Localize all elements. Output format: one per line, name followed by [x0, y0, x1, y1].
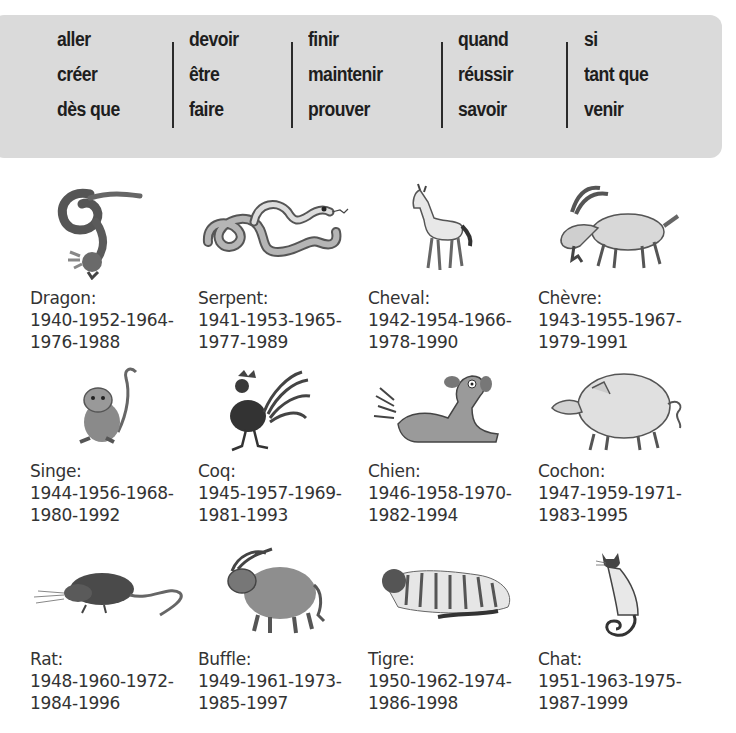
word: être — [189, 57, 239, 92]
zodiac-label: Cheval: 1942-1954-1966- 1978-1990 — [368, 287, 512, 353]
years: 1986-1998 — [368, 692, 512, 714]
column-divider — [172, 42, 174, 128]
animal-name: Singe: — [30, 460, 174, 482]
word-column-5: si tant que venir — [584, 22, 648, 127]
animal-name: Chat: — [538, 648, 682, 670]
years: 1979-1991 — [538, 331, 682, 353]
rat-icon — [30, 545, 190, 640]
dragon-icon — [30, 182, 190, 277]
word: venir — [584, 92, 648, 127]
years: 1951-1963-1975- — [538, 670, 682, 692]
years: 1985-1997 — [198, 692, 342, 714]
years: 1947-1959-1971- — [538, 482, 682, 504]
years: 1976-1988 — [30, 331, 174, 353]
years: 1984-1996 — [30, 692, 174, 714]
word-column-4: quand réussir savoir — [458, 22, 513, 127]
years: 1987-1999 — [538, 692, 682, 714]
word: si — [584, 22, 648, 57]
animal-name: Chèvre: — [538, 287, 682, 309]
snake-icon — [198, 182, 358, 277]
word: faire — [189, 92, 239, 127]
years: 1980-1992 — [30, 504, 174, 526]
zodiac-label: Singe: 1944-1956-1968- 1980-1992 — [30, 460, 174, 526]
animal-name: Dragon: — [30, 287, 174, 309]
column-divider — [566, 42, 568, 128]
zodiac-label: Coq: 1945-1957-1969- 1981-1993 — [198, 460, 342, 526]
animal-name: Cheval: — [368, 287, 512, 309]
zodiac-label: Chèvre: 1943-1955-1967- 1979-1991 — [538, 287, 682, 353]
buffalo-icon — [198, 545, 358, 640]
years: 1941-1953-1965- — [198, 309, 342, 331]
word: aller — [57, 22, 120, 57]
animal-name: Coq: — [198, 460, 342, 482]
cat-icon — [538, 545, 698, 640]
years: 1944-1956-1968- — [30, 482, 174, 504]
dog-icon — [368, 362, 528, 457]
word: prouver — [308, 92, 382, 127]
animal-name: Cochon: — [538, 460, 682, 482]
animal-name: Tigre: — [368, 648, 512, 670]
word: tant que — [584, 57, 648, 92]
zodiac-label: Cochon: 1947-1959-1971- 1983-1995 — [538, 460, 682, 526]
animal-name: Chien: — [368, 460, 512, 482]
word: réussir — [458, 57, 513, 92]
word: dès que — [57, 92, 120, 127]
years: 1978-1990 — [368, 331, 512, 353]
pig-icon — [538, 362, 698, 457]
monkey-icon — [30, 362, 190, 457]
tiger-icon — [368, 545, 528, 640]
word: maintenir — [308, 57, 382, 92]
zodiac-label: Chat: 1951-1963-1975- 1987-1999 — [538, 648, 682, 714]
years: 1983-1995 — [538, 504, 682, 526]
years: 1942-1954-1966- — [368, 309, 512, 331]
zodiac-label: Serpent: 1941-1953-1965- 1977-1989 — [198, 287, 342, 353]
years: 1982-1994 — [368, 504, 512, 526]
animal-name: Buffle: — [198, 648, 342, 670]
word-column-3: finir maintenir prouver — [308, 22, 382, 127]
years: 1940-1952-1964- — [30, 309, 174, 331]
rooster-icon — [198, 362, 358, 457]
word: finir — [308, 22, 382, 57]
word: créer — [57, 57, 120, 92]
word: quand — [458, 22, 513, 57]
word-column-1: aller créer dès que — [57, 22, 120, 127]
years: 1945-1957-1969- — [198, 482, 342, 504]
years: 1981-1993 — [198, 504, 342, 526]
word: devoir — [189, 22, 239, 57]
years: 1946-1958-1970- — [368, 482, 512, 504]
goat-icon — [538, 182, 698, 277]
animal-name: Rat: — [30, 648, 174, 670]
years: 1949-1961-1973- — [198, 670, 342, 692]
years: 1948-1960-1972- — [30, 670, 174, 692]
column-divider — [291, 42, 293, 128]
years: 1977-1989 — [198, 331, 342, 353]
zodiac-label: Tigre: 1950-1962-1974- 1986-1998 — [368, 648, 512, 714]
years: 1943-1955-1967- — [538, 309, 682, 331]
zodiac-label: Buffle: 1949-1961-1973- 1985-1997 — [198, 648, 342, 714]
column-divider — [441, 42, 443, 128]
zodiac-label: Rat: 1948-1960-1972- 1984-1996 — [30, 648, 174, 714]
zodiac-label: Chien: 1946-1958-1970- 1982-1994 — [368, 460, 512, 526]
years: 1950-1962-1974- — [368, 670, 512, 692]
word: savoir — [458, 92, 513, 127]
zodiac-label: Dragon: 1940-1952-1964- 1976-1988 — [30, 287, 174, 353]
horse-icon — [368, 182, 528, 277]
word-column-2: devoir être faire — [189, 22, 239, 127]
animal-name: Serpent: — [198, 287, 342, 309]
